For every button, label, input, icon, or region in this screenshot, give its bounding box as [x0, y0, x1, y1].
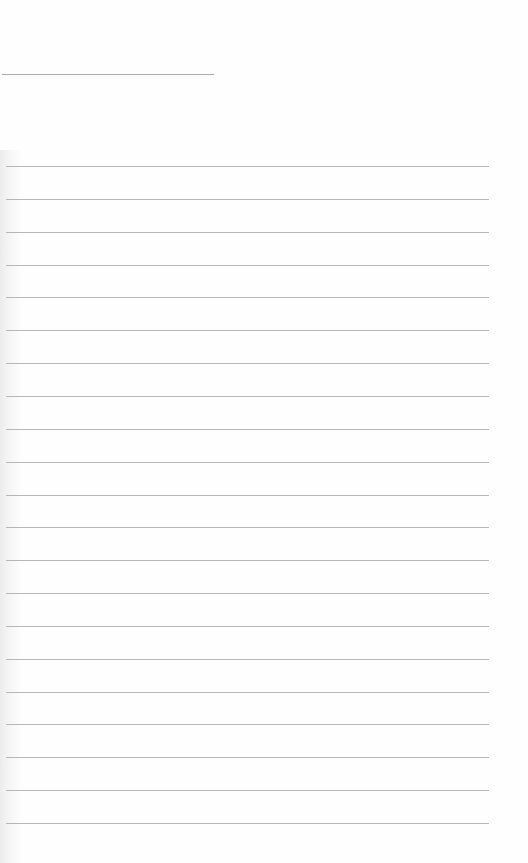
ruled-line	[6, 823, 489, 824]
ruled-line	[6, 757, 489, 758]
ruled-line	[6, 495, 489, 496]
ruled-line	[6, 790, 489, 791]
ruled-line	[6, 166, 489, 167]
ruled-line	[6, 297, 489, 298]
title-line	[2, 74, 214, 75]
ruled-line	[6, 462, 489, 463]
ruled-line	[6, 265, 489, 266]
ruled-line	[6, 626, 489, 627]
ruled-line	[6, 232, 489, 233]
notepaper-page	[0, 0, 528, 863]
ruled-line	[6, 330, 489, 331]
ruled-line	[6, 527, 489, 528]
ruled-line	[6, 429, 489, 430]
ruled-line	[6, 363, 489, 364]
ruled-line	[6, 659, 489, 660]
ruled-line	[6, 560, 489, 561]
ruled-line	[6, 199, 489, 200]
ruled-line	[6, 593, 489, 594]
ruled-line	[6, 724, 489, 725]
ruled-line	[6, 692, 489, 693]
ruled-line	[6, 396, 489, 397]
